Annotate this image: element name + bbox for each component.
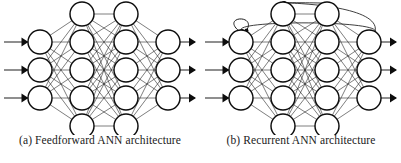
neuron-hidden-1-5: [271, 114, 295, 135]
neuron-input-3: [229, 86, 253, 110]
neuron-hidden-2-5: [114, 114, 138, 135]
neuron-hidden-1-5: [70, 114, 94, 135]
connection-input-to-hidden-1: [251, 21, 273, 36]
connection-input-to-hidden-1: [246, 25, 277, 88]
neuron-hidden-1-1: [70, 2, 94, 26]
connection-hidden-2-to-output: [136, 105, 158, 120]
connection-hidden-2-to-output: [131, 53, 162, 116]
neuron-input-2: [229, 58, 253, 82]
neuron-input-3: [28, 86, 52, 110]
connection-hidden-2-to-output: [332, 53, 363, 116]
neuron-hidden-2-4: [315, 86, 339, 110]
connection-input-to-hidden-1: [50, 105, 72, 120]
neuron-hidden-1-2: [70, 30, 94, 54]
neuron-hidden-2-1: [114, 2, 138, 26]
connection-input-to-hidden-1: [50, 21, 72, 36]
neuron-hidden-1-4: [70, 86, 94, 110]
connection-input-to-hidden-1: [251, 105, 273, 120]
output-arrowhead-3: [189, 94, 196, 103]
neuron-input-1: [229, 30, 253, 54]
recurrent-network-diagram: [201, 0, 401, 135]
connection-hidden-2-to-output: [337, 21, 359, 36]
output-arrowhead-1: [390, 38, 397, 47]
panel-feedforward: (a) Feedforward ANN architecture: [0, 0, 200, 163]
figure-root: (a) Feedforward ANN architecture (b) Rec…: [0, 0, 401, 163]
feedback-arc-output-to-input: [241, 23, 375, 32]
neuron-hidden-1-3: [70, 58, 94, 82]
neuron-hidden-2-5: [315, 114, 339, 135]
neuron-output-1: [156, 30, 180, 54]
neuron-hidden-2-4: [114, 86, 138, 110]
node-group: [229, 2, 381, 135]
caption-panel-a: (a) Feedforward ANN architecture: [0, 134, 200, 146]
neuron-input-1: [28, 30, 52, 54]
neuron-hidden-2-1: [315, 2, 339, 26]
neuron-output-2: [156, 58, 180, 82]
connection-hidden-2-to-output: [337, 105, 359, 120]
feedforward-network-diagram: [0, 0, 200, 135]
connection-hidden-2-to-output: [136, 21, 158, 36]
caption-panel-b: (b) Recurrent ANN architecture: [201, 134, 401, 146]
neuron-hidden-2-3: [114, 58, 138, 82]
neuron-hidden-1-2: [271, 30, 295, 54]
node-group: [28, 2, 180, 135]
neuron-output-3: [156, 86, 180, 110]
neuron-output-3: [357, 86, 381, 110]
output-arrowhead-1: [189, 38, 196, 47]
neuron-hidden-2-2: [315, 30, 339, 54]
neuron-hidden-1-1: [271, 2, 295, 26]
neuron-hidden-1-3: [271, 58, 295, 82]
neuron-hidden-2-3: [315, 58, 339, 82]
output-arrowhead-2: [189, 66, 196, 75]
neuron-hidden-2-2: [114, 30, 138, 54]
neuron-input-2: [28, 58, 52, 82]
neuron-output-2: [357, 58, 381, 82]
edge-group: [45, 14, 162, 126]
edge-group: [246, 14, 363, 126]
panel-recurrent: (b) Recurrent ANN architecture: [201, 0, 401, 163]
neuron-output-1: [357, 30, 381, 54]
output-arrowhead-3: [390, 94, 397, 103]
neuron-hidden-1-4: [271, 86, 295, 110]
output-arrowhead-2: [390, 66, 397, 75]
connection-input-to-hidden-1: [45, 25, 76, 88]
